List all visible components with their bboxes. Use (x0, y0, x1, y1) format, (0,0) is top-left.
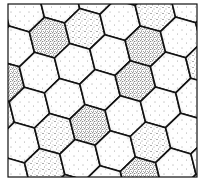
cell-tessellation (0, 0, 201, 181)
hex-cell (0, 131, 4, 172)
cell-wall (0, 131, 4, 172)
cell-layer (0, 0, 201, 181)
cell-stipple (0, 131, 4, 172)
hexagonal-cell-figure: hexagonal-cell-tessellation (0, 0, 201, 181)
